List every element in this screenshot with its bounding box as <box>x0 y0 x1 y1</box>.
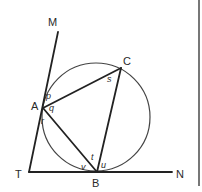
circle <box>42 63 150 171</box>
chord-AB <box>43 108 97 172</box>
angle-label-v: v <box>81 162 86 172</box>
angle-label-r: r <box>41 116 45 126</box>
point-label-A: A <box>31 100 39 112</box>
point-label-T: T <box>15 168 22 180</box>
point-label-N: N <box>176 168 184 180</box>
angle-label-u: u <box>101 160 106 170</box>
angle-label-t: t <box>91 152 94 162</box>
point-label-B: B <box>92 177 99 189</box>
geometry-diagram: M C A T B N p q r s t u v <box>0 0 202 192</box>
angle-label-p: p <box>45 91 51 101</box>
angle-label-q: q <box>49 103 54 113</box>
point-label-M: M <box>48 16 57 28</box>
point-label-C: C <box>123 55 131 67</box>
angle-label-s: s <box>107 74 112 84</box>
